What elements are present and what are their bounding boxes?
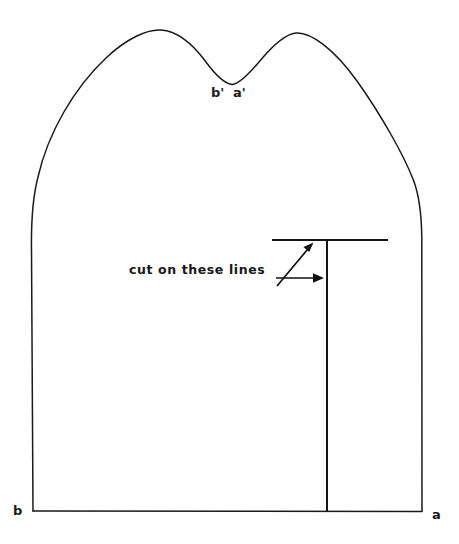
label-a-corner: a (432, 508, 441, 521)
label-a-prime: a' (233, 86, 246, 99)
label-b-prime: b' (211, 86, 224, 99)
label-b-corner: b (13, 504, 22, 517)
horizontal-callout-arrow (276, 273, 324, 283)
diagonal-callout-arrow (277, 243, 314, 287)
figure-root: b' a' b a cut on these lines (0, 0, 459, 544)
panel-baseline (33, 511, 422, 512)
cut-instruction-text: cut on these lines (129, 262, 265, 277)
